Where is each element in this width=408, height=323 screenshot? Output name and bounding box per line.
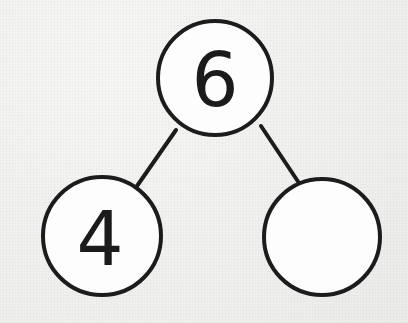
connector-left-line — [137, 130, 176, 186]
number-bond-worksheet: 6 4 — [0, 0, 408, 323]
whole-value: 6 — [191, 37, 238, 123]
part-left-value: 4 — [76, 196, 123, 282]
part-circle-right[interactable] — [264, 179, 380, 295]
number-bond-diagram: 6 4 — [0, 0, 408, 323]
connector-right-line — [261, 126, 299, 183]
